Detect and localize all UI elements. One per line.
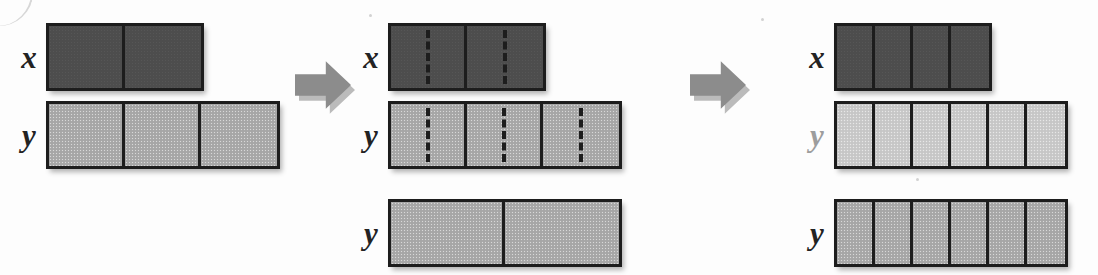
array-cell [951, 26, 989, 88]
array-cell [989, 202, 1027, 264]
scan-speck [761, 18, 764, 21]
row-x-initial: x [12, 26, 204, 88]
row-y-result-faded: y [800, 104, 1068, 166]
scan-speck [369, 14, 372, 17]
array-cell [875, 26, 913, 88]
array-cell [391, 202, 505, 264]
array-cell [201, 104, 277, 166]
array-cell [837, 202, 875, 264]
row-y-result-faded-cells [834, 101, 1068, 169]
array-cell [951, 104, 989, 166]
row-y-split-label: y [354, 120, 388, 151]
row-y-initial-label: y [12, 120, 46, 151]
array-cell [49, 26, 125, 88]
array-cell [467, 104, 543, 166]
row-y-result-cells [834, 199, 1068, 267]
row-x-result-cells [834, 23, 992, 91]
row-y-split: y [354, 104, 622, 166]
array-cell [543, 104, 619, 166]
row-y-initial: y [12, 104, 280, 166]
array-cell [837, 104, 875, 166]
array-cell [989, 104, 1027, 166]
array-cell [467, 26, 543, 88]
array-cell [913, 202, 951, 264]
array-cell [391, 104, 467, 166]
arrow-step-1-icon [295, 58, 351, 112]
row-y-merged-label: y [354, 218, 388, 249]
row-y-split-cells [388, 101, 622, 169]
row-x-result-label: x [800, 42, 834, 73]
array-cell [951, 202, 989, 264]
row-y-result: y [800, 202, 1068, 264]
array-cell [125, 104, 201, 166]
array-cell [1027, 202, 1065, 264]
array-cell [49, 104, 125, 166]
row-x-result: x [800, 26, 992, 88]
array-alignment-diagram: xyxyyxyy [0, 0, 1098, 275]
array-cell [125, 26, 201, 88]
row-x-initial-cells [46, 23, 204, 91]
array-cell [875, 104, 913, 166]
array-cell [875, 202, 913, 264]
row-y-initial-cells [46, 101, 280, 169]
row-x-split-label: x [354, 42, 388, 73]
array-cell [505, 202, 619, 264]
scan-speck [916, 178, 919, 181]
array-cell [837, 26, 875, 88]
row-x-split: x [354, 26, 546, 88]
array-cell [391, 26, 467, 88]
array-cell [1027, 104, 1065, 166]
row-x-split-cells [388, 23, 546, 91]
row-y-merged: y [354, 202, 622, 264]
row-x-initial-label: x [12, 42, 46, 73]
array-cell [913, 104, 951, 166]
array-cell [913, 26, 951, 88]
arrow-glyph [690, 58, 746, 112]
row-y-merged-cells [388, 199, 622, 267]
row-y-result-faded-label: y [800, 120, 834, 151]
arrow-glyph [295, 58, 351, 112]
row-y-result-label: y [800, 218, 834, 249]
arrow-step-2-icon [690, 58, 746, 112]
